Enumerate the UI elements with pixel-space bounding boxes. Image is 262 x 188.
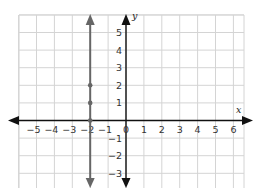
svg-text:−1: −1 bbox=[108, 133, 122, 144]
svg-text:4: 4 bbox=[195, 124, 201, 135]
svg-text:−2: −2 bbox=[80, 124, 94, 135]
svg-text:3: 3 bbox=[177, 124, 183, 135]
data-point bbox=[88, 83, 93, 88]
y-axis-label: y bbox=[131, 10, 138, 21]
svg-text:2: 2 bbox=[159, 124, 165, 135]
graph: −5−4−3−2−10123456−3−2−112345 x y bbox=[0, 0, 262, 188]
series-line bbox=[86, 14, 95, 188]
svg-text:5: 5 bbox=[212, 124, 218, 135]
axes bbox=[8, 14, 253, 188]
svg-text:−3: −3 bbox=[62, 124, 76, 135]
svg-text:0: 0 bbox=[123, 124, 129, 135]
svg-text:1: 1 bbox=[141, 124, 147, 135]
svg-text:−4: −4 bbox=[44, 124, 58, 135]
svg-text:−3: −3 bbox=[108, 168, 122, 179]
svg-text:3: 3 bbox=[116, 62, 122, 73]
data-point bbox=[88, 101, 93, 106]
svg-text:4: 4 bbox=[116, 45, 122, 56]
grid bbox=[19, 15, 244, 188]
svg-text:5: 5 bbox=[116, 27, 122, 38]
svg-text:1: 1 bbox=[116, 97, 122, 108]
data-point bbox=[88, 118, 93, 123]
svg-text:−2: −2 bbox=[108, 150, 122, 161]
svg-text:6: 6 bbox=[230, 124, 236, 135]
svg-text:−5: −5 bbox=[26, 124, 40, 135]
x-axis-label: x bbox=[236, 104, 242, 115]
svg-text:2: 2 bbox=[116, 80, 122, 91]
